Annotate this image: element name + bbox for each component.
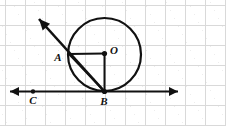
geometry-figure: AOBC — [0, 0, 226, 126]
grid-speck — [210, 46, 211, 47]
point-label-c: C — [29, 94, 37, 106]
point-dot-b — [102, 89, 107, 94]
grid-speck — [122, 2, 123, 3]
grid-speck — [38, 98, 39, 99]
grid-speck — [222, 114, 223, 115]
grid-speck — [46, 114, 47, 115]
grid-speck — [170, 10, 171, 11]
grid-speck — [46, 70, 47, 71]
grid-speck — [174, 106, 175, 107]
grid-speck — [202, 30, 203, 31]
grid-speck — [70, 74, 71, 75]
grid-speck — [194, 102, 195, 103]
grid-speck — [178, 26, 179, 27]
grid-speck — [90, 114, 91, 115]
grid-speck — [222, 26, 223, 27]
grid-speck — [50, 34, 51, 35]
grid-speck — [54, 42, 55, 43]
grid-speck — [154, 66, 155, 67]
grid-speck — [94, 34, 95, 35]
grid-speck — [102, 50, 103, 51]
point-label-o: O — [110, 44, 118, 56]
grid-speck — [114, 30, 115, 31]
grid-speck — [86, 18, 87, 19]
grid-speck — [214, 54, 215, 55]
ray-b-through-a — [39, 19, 105, 92]
ray-group — [39, 19, 105, 92]
grid-speck — [150, 102, 151, 103]
grid-speck — [82, 98, 83, 99]
grid-speck — [158, 118, 159, 119]
grid-speck — [94, 122, 95, 123]
grid-speck — [182, 34, 183, 35]
grid-speck — [34, 46, 35, 47]
grid-speck — [130, 62, 131, 63]
grid-speck — [62, 58, 63, 59]
figure-canvas: AOBC — [0, 0, 226, 126]
grid-speck — [134, 114, 135, 115]
grid-speck — [114, 74, 115, 75]
grid-speck — [138, 122, 139, 123]
grid-speck — [142, 42, 143, 43]
grid-speck — [110, 22, 111, 23]
grid-speck — [214, 10, 215, 11]
grid-speck — [134, 70, 135, 71]
grid-speck — [50, 122, 51, 123]
point-label-a: A — [53, 51, 61, 63]
grid-speck — [50, 78, 51, 79]
grid-speck — [158, 30, 159, 31]
grid-speck — [14, 94, 15, 95]
grid-speck — [170, 54, 171, 55]
grid-speck — [174, 62, 175, 63]
grid-speck — [86, 62, 87, 63]
grid-speck — [186, 42, 187, 43]
grid-speck — [30, 82, 31, 83]
grid-speck — [62, 102, 63, 103]
grid-speck — [42, 106, 43, 107]
grid-speck — [118, 82, 119, 83]
grid-speck — [138, 78, 139, 79]
grid-speck — [58, 94, 59, 95]
grid-speck — [90, 70, 91, 71]
grid-speck — [38, 10, 39, 11]
grid-speck — [178, 70, 179, 71]
grid-speck — [214, 98, 215, 99]
grid-speck — [86, 106, 87, 107]
grid-speck — [178, 114, 179, 115]
grid-speck — [54, 86, 55, 87]
grid-speck — [18, 14, 19, 15]
grid-speck — [70, 30, 71, 31]
grid-speck — [22, 110, 23, 111]
grid-speck — [110, 66, 111, 67]
grid-speck — [206, 82, 207, 83]
grid-speck — [182, 78, 183, 79]
grid-speck — [166, 46, 167, 47]
grid-speck — [98, 42, 99, 43]
grid-speck — [138, 34, 139, 35]
grid-speck — [30, 38, 31, 39]
grid-speck — [38, 54, 39, 55]
grid-speck — [106, 14, 107, 15]
grid-speck — [118, 38, 119, 39]
grid-speck — [2, 70, 3, 71]
grid-speck — [122, 46, 123, 47]
grid-speck — [218, 18, 219, 19]
grid-speck — [126, 10, 127, 11]
grid-speck — [10, 86, 11, 87]
grid-speck — [22, 22, 23, 23]
grid-speck — [154, 22, 155, 23]
grid-speck — [62, 14, 63, 15]
grid-speck — [110, 110, 111, 111]
grid-speck — [222, 70, 223, 71]
grid-speck — [130, 18, 131, 19]
grid-speck — [170, 98, 171, 99]
grid-speck — [6, 34, 7, 35]
grid-speck — [22, 66, 23, 67]
grid-speck — [66, 22, 67, 23]
grid-speck — [18, 58, 19, 59]
grid-speck — [194, 58, 195, 59]
grid-speck — [78, 46, 79, 47]
grid-speck — [134, 26, 135, 27]
grid-speck — [198, 22, 199, 23]
grid-speck — [90, 26, 91, 27]
